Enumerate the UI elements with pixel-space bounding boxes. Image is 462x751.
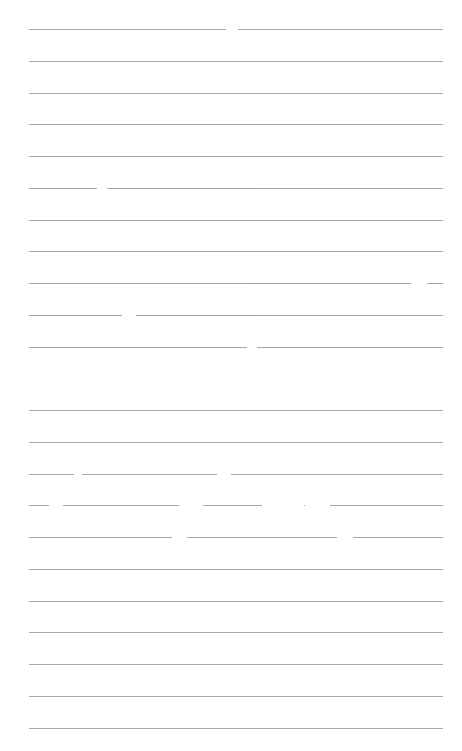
ruled-line [29,156,443,157]
line-gap-artifact [262,504,304,507]
ruled-line [29,537,443,538]
line-gap-artifact [337,536,353,539]
line-gap-artifact [305,504,330,507]
ruled-line [29,220,443,221]
ruled-line [29,442,443,443]
ruled-line [29,474,443,475]
line-gap-artifact [226,28,238,31]
ruled-line [29,632,443,633]
line-gap-artifact [411,282,427,285]
ruled-line [29,29,443,30]
line-gap-artifact [172,536,187,539]
line-gap-artifact [247,346,257,349]
line-gap-artifact [74,473,82,476]
ruled-line [29,93,443,94]
line-gap-artifact [217,473,231,476]
ruled-line [29,315,443,316]
ruled-line [29,347,443,348]
ruled-line [29,664,443,665]
ruled-line [29,283,443,284]
ruled-line [29,569,443,570]
line-gap-artifact [122,314,136,317]
line-gap-artifact [179,504,203,507]
ruled-line [29,251,443,252]
ruled-line [29,696,443,697]
ruled-line [29,188,443,189]
line-gap-artifact [97,187,107,190]
ruled-paper-page [0,0,462,751]
ruled-line [29,728,443,729]
ruled-line [29,505,443,506]
line-gap-artifact [49,504,63,507]
ruled-line [29,601,443,602]
ruled-line [29,410,443,411]
ruled-line [29,124,443,125]
ruled-line [29,61,443,62]
